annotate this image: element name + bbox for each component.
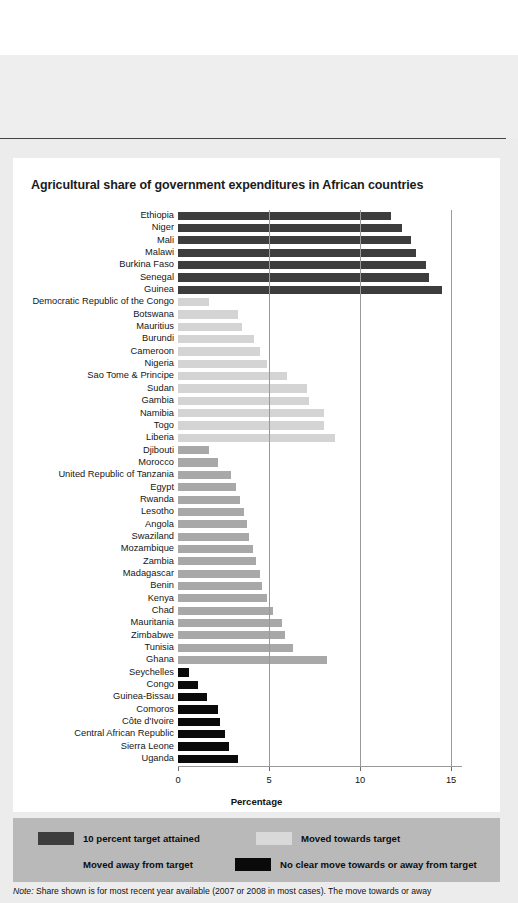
category-label: Burkina Faso <box>119 258 174 270</box>
category-label: Zambia <box>143 555 174 567</box>
gridline <box>451 210 452 766</box>
bar-row <box>178 654 462 666</box>
category-label: Cameroon <box>131 345 174 357</box>
legend-swatch <box>38 858 74 871</box>
category-label: Kenya <box>148 592 174 604</box>
bar <box>178 681 198 689</box>
bar-row <box>178 691 462 703</box>
legend-item: 10 percent target attained <box>38 832 200 845</box>
bar-row <box>178 753 462 765</box>
bar-row <box>178 383 462 395</box>
bar <box>178 236 411 244</box>
legend-item: No clear move towards or away from targe… <box>235 858 477 871</box>
legend-swatch <box>38 832 74 845</box>
bar-row <box>178 580 462 592</box>
bar-row <box>178 284 462 296</box>
bar <box>178 335 254 343</box>
bar-row <box>178 469 462 481</box>
bar <box>178 323 242 331</box>
bar <box>178 693 207 701</box>
legend-swatch <box>256 832 292 845</box>
bar-row <box>178 358 462 370</box>
bar-row <box>178 630 462 642</box>
bar <box>178 730 225 738</box>
bar-row <box>178 395 462 407</box>
category-label: Swaziland <box>132 530 174 542</box>
category-label: Rwanda <box>140 493 174 505</box>
bar <box>178 582 262 590</box>
plot-area: EthiopiaNigerMaliMalawiBurkina FasoSeneg… <box>13 210 500 770</box>
category-label: Congo <box>147 678 174 690</box>
bar-row <box>178 445 462 457</box>
category-label: Namibia <box>140 407 174 419</box>
bar <box>178 458 218 466</box>
bar-row <box>178 432 462 444</box>
bar-row <box>178 321 462 333</box>
legend-label: Moved towards target <box>301 833 400 844</box>
category-label: Nigeria <box>145 357 174 369</box>
category-label: Togo <box>154 419 174 431</box>
bar <box>178 212 391 220</box>
x-axis-tick-label: 0 <box>175 775 180 785</box>
category-label: Malawi <box>145 246 174 258</box>
bar <box>178 261 426 269</box>
bar <box>178 533 249 541</box>
bar <box>178 434 335 442</box>
bar <box>178 483 236 491</box>
bar-row <box>178 247 462 259</box>
x-axis-line <box>178 766 462 767</box>
bar-row <box>178 309 462 321</box>
category-label: Sudan <box>147 382 174 394</box>
bar <box>178 384 307 392</box>
x-axis-title: Percentage <box>13 796 500 807</box>
bar-row <box>178 556 462 568</box>
bar <box>178 496 240 504</box>
category-label-row: Namibia <box>13 408 177 420</box>
bar <box>178 286 442 294</box>
category-label: Democratic Republic of the Congo <box>32 295 174 307</box>
legend-swatch <box>235 858 271 871</box>
category-label: Senegal <box>140 271 174 283</box>
bar <box>178 310 238 318</box>
bar-row <box>178 506 462 518</box>
bar <box>178 705 218 713</box>
legend-label: 10 percent target attained <box>83 833 200 844</box>
bar-row <box>178 494 462 506</box>
bar-row <box>178 593 462 605</box>
bar-row <box>178 519 462 531</box>
bar-row <box>178 704 462 716</box>
x-axis-tick-label: 10 <box>355 775 365 785</box>
bar-row <box>178 667 462 679</box>
category-label: Gambia <box>141 394 174 406</box>
page-header-band <box>0 55 518 138</box>
bar <box>178 520 247 528</box>
category-label: Sierra Leone <box>121 740 174 752</box>
x-axis-tick-label: 15 <box>446 775 456 785</box>
legend-item: Moved towards target <box>256 832 400 845</box>
bar-row <box>178 420 462 432</box>
category-label: Mozambique <box>121 542 174 554</box>
bars-column <box>178 210 462 765</box>
bar-row <box>178 296 462 308</box>
legend-item: Moved away from target <box>38 858 193 871</box>
bar-row <box>178 605 462 617</box>
bar <box>178 742 229 750</box>
bar <box>178 224 402 232</box>
category-label: Mauritius <box>136 320 174 332</box>
bar-row <box>178 370 462 382</box>
category-label: Djibouti <box>143 444 174 456</box>
header-divider-rule <box>0 138 506 139</box>
bar <box>178 755 238 763</box>
category-label: Tunisia <box>144 641 174 653</box>
category-label: Central African Republic <box>74 727 174 739</box>
bar-row <box>178 408 462 420</box>
category-label-row: Niger <box>13 222 177 234</box>
bar <box>178 421 324 429</box>
category-label: Benin <box>150 579 174 591</box>
bar-row <box>178 531 462 543</box>
category-label: Sao Tome & Principe <box>87 369 174 381</box>
bar <box>178 644 293 652</box>
bar <box>178 594 267 602</box>
note-text: Share shown is for most recent year avai… <box>34 886 432 896</box>
bar-row <box>178 679 462 691</box>
